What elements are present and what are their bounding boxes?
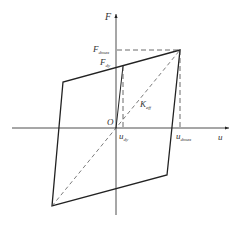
hysteresis-diagram: F u O Fdmax Fdy udy udmax Keff — [0, 0, 244, 228]
elastic-branch — [116, 66, 123, 128]
k-eff-label: Keff — [139, 99, 152, 110]
f-dmax-label: Fdmax — [92, 44, 110, 55]
origin-label: O — [107, 117, 114, 127]
y-axis-label: F — [104, 11, 112, 22]
u-dy-label: udy — [119, 131, 129, 142]
diagram-canvas: F u O Fdmax Fdy udy udmax Keff — [0, 0, 244, 228]
x-axis-label: u — [218, 132, 223, 142]
f-dy-label: Fdy — [99, 57, 111, 68]
u-dmax-label: udmax — [176, 131, 192, 142]
